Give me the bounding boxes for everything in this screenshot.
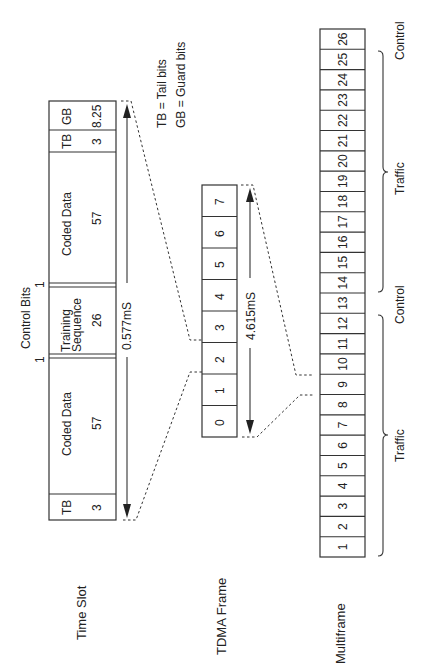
multiframe-frame-21: 21 [336, 134, 350, 148]
tdma-duration-arrow: 4.615mS [244, 188, 258, 434]
svg-text:6: 6 [213, 230, 227, 237]
svg-text:3: 3 [90, 504, 104, 511]
svg-text:TB: TB [60, 134, 74, 149]
svg-text:Sequence: Sequence [70, 298, 84, 352]
svg-text:Control: Control [393, 285, 407, 324]
control-bit-left: 1 [33, 356, 47, 363]
svg-text:8: 8 [336, 401, 350, 408]
field-coded-data-right: Coded Data 57 [60, 192, 104, 256]
multiframe-frame-13: 13 [336, 296, 350, 310]
svg-text:26: 26 [90, 313, 104, 327]
svg-text:5: 5 [336, 462, 350, 469]
svg-text:18: 18 [336, 195, 350, 209]
row-label-time-slot: Time Slot [74, 585, 89, 640]
svg-text:13: 13 [336, 296, 350, 310]
svg-text:9: 9 [336, 381, 350, 388]
legend-guard-bits: GB = Guard bits [174, 42, 188, 128]
tdma-duration: 4.615mS [244, 292, 258, 340]
tdma-slot-2: 2 [213, 356, 227, 363]
row-label-multiframe: Multiframe [333, 603, 348, 664]
svg-text:25: 25 [336, 52, 350, 66]
multiframe-frame-10: 10 [336, 357, 350, 371]
svg-text:3: 3 [213, 324, 227, 331]
svg-text:2: 2 [336, 523, 350, 530]
multiframe-frame-18: 18 [336, 195, 350, 209]
tdma-slot-7: 7 [213, 198, 227, 205]
svg-text:7: 7 [213, 198, 227, 205]
svg-text:19: 19 [336, 174, 350, 188]
svg-text:11: 11 [336, 337, 350, 350]
multiframe-frame-9: 9 [336, 381, 350, 388]
svg-text:Traffic: Traffic [393, 162, 407, 195]
svg-text:7: 7 [336, 421, 350, 428]
time-slot-duration-arrow: 0.577mS [120, 104, 134, 518]
multiframe-frame-12: 12 [336, 316, 350, 330]
svg-text:TDMA Frame: TDMA Frame [214, 578, 229, 655]
multiframe-frame-6: 6 [336, 442, 350, 449]
time-slot-duration: 0.577mS [120, 302, 134, 350]
svg-text:Coded Data: Coded Data [60, 392, 74, 456]
row-label-tdma-frame: TDMA Frame [214, 578, 229, 655]
multiframe-frame-14: 14 [336, 276, 350, 290]
svg-text:15: 15 [336, 256, 350, 270]
svg-text:57: 57 [90, 211, 104, 225]
svg-text:2: 2 [213, 356, 227, 363]
svg-text:26: 26 [336, 32, 350, 46]
svg-text:57: 57 [90, 416, 104, 430]
group-label-control-13: Control [393, 285, 407, 324]
svg-text:0: 0 [213, 419, 227, 426]
multiframe-frame-23: 23 [336, 93, 350, 107]
svg-text:3: 3 [336, 503, 350, 510]
time-slot-block: GB 8.25 TB 3 Coded Data 57 Training Sequ… [49, 101, 116, 520]
svg-text:12: 12 [336, 316, 350, 330]
svg-text:Multiframe: Multiframe [333, 603, 348, 664]
multiframe-frame-19: 19 [336, 174, 350, 188]
svg-text:Time Slot: Time Slot [74, 585, 89, 640]
svg-text:22: 22 [336, 113, 350, 127]
svg-text:4: 4 [213, 293, 227, 300]
svg-text:23: 23 [336, 93, 350, 107]
multiframe-frame-2: 2 [336, 523, 350, 530]
svg-text:6: 6 [336, 442, 350, 449]
legend: TB = Tail bits GB = Guard bits [155, 42, 188, 128]
svg-text:10: 10 [336, 357, 350, 371]
field-training-sequence: Training Sequence 26 [59, 298, 104, 352]
multiframe-braces: Traffic Control Traffic Control [378, 21, 407, 556]
tdma-slot-1: 1 [213, 387, 227, 394]
multiframe-frame-22: 22 [336, 113, 350, 127]
field-tb-right: TB 3 [60, 134, 104, 149]
multiframe-frame-24: 24 [336, 73, 350, 87]
svg-text:24: 24 [336, 73, 350, 87]
svg-text:Control Bits: Control Bits [19, 287, 33, 349]
tdma-slot-0: 0 [213, 419, 227, 426]
multiframe-frame-1: 1 [336, 543, 350, 550]
svg-text:Control: Control [393, 21, 407, 60]
multiframe-frame-3: 3 [336, 503, 350, 510]
multiframe-frame-25: 25 [336, 52, 350, 66]
field-coded-data-left: Coded Data 57 [60, 392, 104, 456]
svg-text:14: 14 [336, 276, 350, 290]
svg-text:Traffic: Traffic [393, 429, 407, 462]
group-label-traffic-2: Traffic [393, 162, 407, 195]
svg-text:21: 21 [336, 134, 350, 148]
svg-text:1: 1 [213, 387, 227, 394]
svg-text:1: 1 [336, 543, 350, 550]
multiframe-frame-17: 17 [336, 215, 350, 229]
field-tb-left: TB 3 [60, 500, 104, 515]
svg-text:Coded Data: Coded Data [60, 192, 74, 256]
tdma-slot-4: 4 [213, 293, 227, 300]
multiframe-frame-16: 16 [336, 235, 350, 249]
multiframe-frame-7: 7 [336, 421, 350, 428]
multiframe-frame-26: 26 [336, 32, 350, 46]
multiframe-frame-15: 15 [336, 256, 350, 270]
svg-text:8.25: 8.25 [90, 104, 104, 128]
control-bits-label: Control Bits 1 1 [19, 281, 47, 363]
multiframe-frame-20: 20 [336, 154, 350, 168]
tdma-slot-6: 6 [213, 230, 227, 237]
gsm-frame-structure-diagram: Time Slot TDMA Frame Multiframe TB = Tai… [0, 0, 427, 671]
multiframe-frame-11: 11 [336, 337, 350, 350]
control-bit-right: 1 [33, 281, 47, 288]
tdma-slot-3: 3 [213, 324, 227, 331]
multiframe-frame-4: 4 [336, 482, 350, 489]
svg-text:17: 17 [336, 215, 350, 229]
